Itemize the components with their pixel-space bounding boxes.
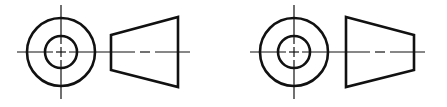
technical-drawing — [0, 0, 447, 107]
center-lines — [17, 5, 190, 99]
drawing-canvas — [0, 0, 447, 107]
view-b — [250, 5, 425, 99]
view-a — [17, 5, 190, 99]
center-lines — [250, 5, 425, 99]
